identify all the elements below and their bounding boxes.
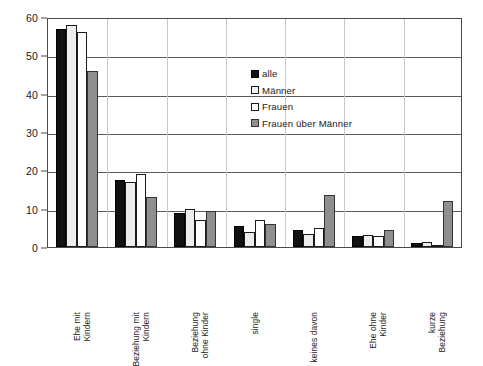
bar-group (234, 19, 276, 247)
gridline-vertical (226, 19, 227, 247)
x-axis-tick-label: kurzeBeziehung (428, 312, 447, 352)
bar (443, 201, 454, 247)
x-axis-tick-label: Beziehung mitKindern (132, 312, 151, 366)
y-axis-tick-label: 0 (32, 242, 38, 254)
bar (115, 180, 126, 247)
gridline-vertical (167, 19, 168, 247)
bar (265, 224, 276, 247)
bar-group (293, 19, 335, 247)
bar (136, 174, 147, 247)
bar-group (115, 19, 157, 247)
bar-group (411, 19, 453, 247)
x-axis-tick-label: single (251, 312, 261, 334)
legend-item-label: Frauen (262, 101, 293, 112)
bar (373, 236, 384, 247)
x-axis-tick-label: Beziehungohne Kinder (191, 312, 210, 358)
y-axis: 0102030405060 (0, 0, 47, 248)
bar (87, 71, 98, 247)
bar (411, 243, 422, 247)
gridline-vertical (344, 19, 345, 247)
bar (125, 182, 136, 247)
legend-swatch-alle (251, 70, 259, 78)
bar (146, 197, 157, 247)
bar (303, 234, 314, 247)
x-axis-tick-label: Ehe mitKindern (73, 312, 92, 342)
bar (293, 230, 304, 247)
bar (206, 211, 217, 247)
bar (432, 245, 443, 247)
bar (234, 226, 245, 247)
gridline-vertical (285, 19, 286, 247)
bar (66, 25, 77, 247)
y-axis-tick-label: 20 (26, 165, 38, 177)
bar (363, 235, 374, 247)
bar (185, 209, 196, 247)
y-axis-tick-label: 50 (26, 50, 38, 62)
y-axis-tick-label: 40 (26, 89, 38, 101)
bar (174, 213, 185, 248)
legend-item: Männer (251, 83, 391, 98)
gridline-vertical (404, 19, 405, 247)
x-axis-category-labels: Ehe mitKindernBeziehung mitKindernBezieh… (47, 250, 462, 315)
legend-swatch-maenner (251, 86, 259, 94)
bar (77, 32, 88, 247)
legend-item: Frauen über Männer (251, 116, 391, 131)
bar-group (174, 19, 216, 247)
legend-item-label: Frauen über Männer (262, 118, 352, 129)
bar (384, 230, 395, 247)
y-axis-tick-label: 30 (26, 127, 38, 139)
legend-item: Frauen (251, 99, 391, 114)
bar (56, 29, 67, 248)
bar (314, 228, 325, 247)
bar (195, 220, 206, 247)
legend-item-label: alle (262, 68, 278, 79)
bar (352, 236, 363, 248)
x-axis-tick-label: Ehe ohneKinder (369, 312, 388, 349)
legend-item-label: Männer (262, 85, 295, 96)
bar (255, 220, 266, 247)
legend-swatch-frauen-ueber-maenner (251, 119, 259, 127)
gridline-vertical (107, 19, 108, 247)
bar-group (56, 19, 98, 247)
legend-swatch-frauen (251, 103, 259, 111)
bar (244, 232, 255, 247)
y-axis-tick-label: 60 (26, 12, 38, 24)
legend-item: alle (251, 66, 391, 81)
x-axis-tick-label: keines davon (310, 312, 320, 363)
bar (422, 242, 433, 247)
chart-legend: alleMännerFrauenFrauen über Männer (251, 66, 391, 132)
plot-area (47, 18, 462, 248)
bar (324, 195, 335, 247)
y-axis-tick-label: 10 (26, 204, 38, 216)
bar-group (352, 19, 394, 247)
